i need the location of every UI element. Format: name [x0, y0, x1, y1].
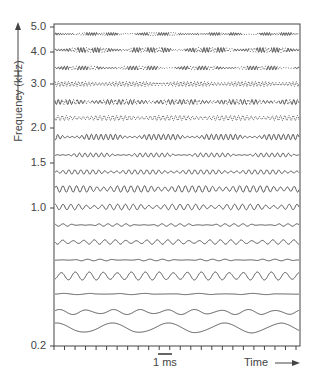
x-axis-title: Time: [244, 356, 268, 368]
y-tick-label: 5.0: [16, 20, 46, 32]
waveform-traces: [55, 33, 299, 333]
plot-frame: [54, 24, 300, 346]
x-axis-arrow-icon: [275, 360, 300, 366]
x-axis-ticks: [54, 346, 296, 350]
waveform-trace: [55, 170, 299, 174]
waveform-trace: [55, 82, 299, 87]
waveform-trace: [55, 100, 299, 105]
waveform-trace: [55, 48, 299, 53]
waveform-trace: [55, 224, 299, 226]
waveform-trace: [55, 240, 299, 244]
waveform-trace: [55, 186, 299, 192]
waveform-trace: [55, 293, 299, 294]
figure: 5.04.03.02.01.51.00.2 Frequency (kHz) Ti…: [0, 0, 322, 390]
waveform-trace: [55, 116, 299, 121]
y-axis-title: Frequency (kHz): [12, 46, 24, 156]
waveform-plot: [0, 0, 322, 390]
scale-bar-label: 1 ms: [153, 356, 177, 368]
waveform-trace: [55, 323, 299, 333]
waveform-trace: [55, 153, 299, 157]
waveform-trace: [55, 204, 299, 210]
waveform-trace: [55, 66, 299, 70]
waveform-trace: [55, 310, 299, 315]
waveform-trace: [55, 134, 299, 140]
waveform-trace: [55, 259, 299, 261]
y-tick-label: 1.0: [16, 201, 46, 213]
y-axis-ticks: [50, 27, 54, 346]
y-tick-label: 0.2: [16, 339, 46, 351]
waveform-trace: [55, 272, 299, 280]
waveform-trace: [55, 33, 299, 36]
y-tick-label: 1.5: [16, 156, 46, 168]
